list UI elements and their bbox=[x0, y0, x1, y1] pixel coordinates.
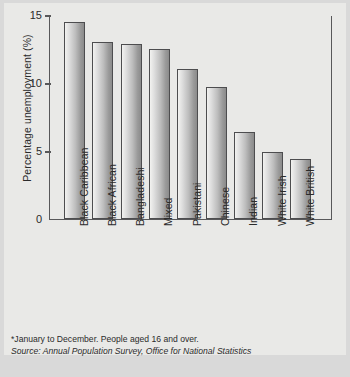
y-axis-tick-label: 10 bbox=[2, 77, 42, 89]
x-axis-category-label: White British bbox=[304, 166, 316, 226]
x-axis-category-label: Bangladeshi bbox=[134, 167, 146, 226]
chart-plot-wrapper: Percentage unemployment (%) 051015 Black… bbox=[0, 0, 350, 377]
x-axis-category-label: White Irish bbox=[276, 175, 288, 226]
footnotes: *January to December. People aged 16 and… bbox=[11, 334, 341, 357]
x-axis-category-label: Black Caribbean bbox=[78, 147, 90, 226]
bar bbox=[149, 49, 170, 219]
y-axis-title: Percentage unemployment (%) bbox=[21, 8, 33, 208]
x-axis-category-label: Black African bbox=[106, 164, 118, 226]
y-axis-tick-label: 0 bbox=[2, 213, 42, 225]
x-axis-category-label: Pakistani bbox=[191, 182, 203, 226]
footnote-source: Source: Annual Population Survey, Office… bbox=[11, 346, 341, 358]
x-axis-category-label: Indian bbox=[247, 197, 259, 226]
chart-figure: Percentage unemployment (%) 051015 Black… bbox=[0, 0, 350, 377]
x-axis-category-label: Mixed bbox=[162, 197, 174, 226]
x-axis-category-label: Chinese bbox=[219, 187, 231, 226]
y-axis-tick-label: 5 bbox=[2, 145, 42, 157]
y-axis-tick-label: 15 bbox=[2, 9, 42, 21]
footnote-note: *January to December. People aged 16 and… bbox=[11, 334, 341, 346]
